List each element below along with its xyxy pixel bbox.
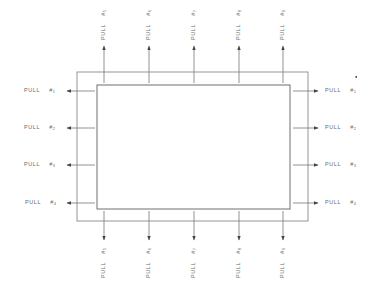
right-pull-label-4: PULL#4 — [325, 200, 357, 206]
bottom-pull-label-8: PULL#8 — [236, 247, 242, 278]
left-pull-label-1: PULL#1 — [24, 88, 56, 94]
top-arrows — [104, 46, 283, 83]
top-pull-label-5: PULL#5 — [101, 9, 107, 40]
left-arrows — [67, 91, 95, 203]
right-pull-label-3: PULL#3 — [325, 162, 357, 168]
right-pull-label-1: PULL#1 — [325, 88, 357, 94]
bottom-pull-label-9: PULL#9 — [280, 247, 286, 278]
right-pull-label-2: PULL#2 — [325, 125, 357, 131]
left-pull-label-2: PULL#2 — [24, 125, 56, 131]
right-arrows — [293, 91, 318, 203]
bottom-pull-label-6: PULL#6 — [146, 247, 152, 278]
inner-panel — [97, 85, 290, 209]
outer-frame — [77, 72, 308, 221]
top-pull-label-9: PULL#9 — [280, 9, 286, 40]
bottom-pull-label-5: PULL#5 — [101, 247, 107, 278]
bottom-pull-label-7: PULL#7 — [191, 247, 197, 278]
top-pull-label-8: PULL#8 — [236, 9, 242, 40]
pull-test-diagram: PULL#1 PULL#2 PULL#3 PULL#4 PULL#1 PULL#… — [0, 0, 381, 296]
top-pull-label-7: PULL#7 — [191, 9, 197, 40]
bottom-arrows — [104, 211, 283, 240]
stray-dot — [356, 76, 357, 78]
left-pull-label-3: PULL#3 — [24, 162, 56, 168]
top-pull-label-6: PULL#6 — [146, 9, 152, 40]
left-pull-label-4: PULL#4 — [25, 200, 57, 206]
